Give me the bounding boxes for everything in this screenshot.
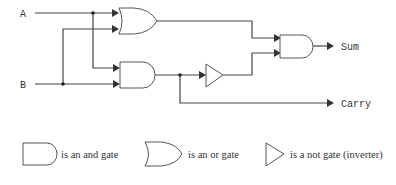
- junction-b: [61, 82, 65, 86]
- and-gate-1: [120, 62, 155, 88]
- junction-a: [91, 11, 95, 15]
- legend-not-label: is a not gate (inverter): [290, 149, 383, 161]
- and-gate-2: [280, 35, 313, 58]
- legend-and-label: is an and gate: [61, 149, 119, 160]
- output-carry-label: Carry: [341, 99, 371, 110]
- legend-or-gate-icon: [145, 142, 182, 166]
- legend-and-gate-icon: [23, 143, 57, 165]
- input-a-label: A: [20, 9, 26, 20]
- junction-and1: [178, 73, 182, 77]
- or-gate: [119, 8, 157, 34]
- legend-or-label: is an or gate: [188, 149, 239, 160]
- not-gate: [206, 64, 223, 87]
- circuit-diagram: A B: [0, 0, 396, 185]
- legend: is an and gate is an or gate is a not ga…: [23, 142, 383, 166]
- legend-not-gate-icon: [266, 143, 284, 166]
- input-b-label: B: [20, 80, 26, 91]
- output-sum-label: Sum: [341, 42, 359, 53]
